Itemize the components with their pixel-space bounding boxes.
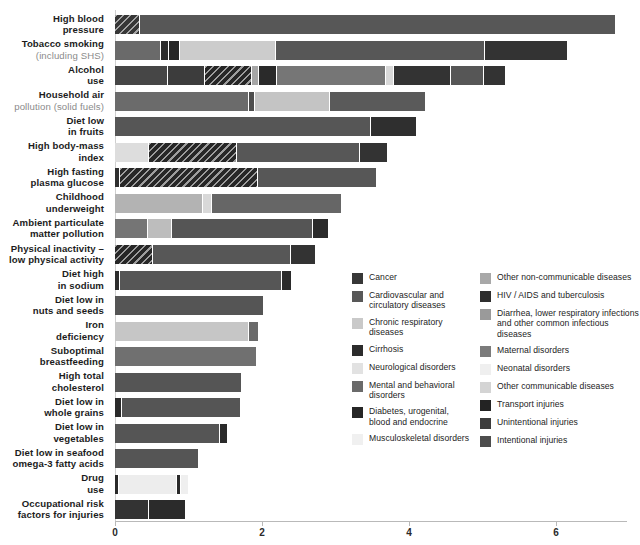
stacked-bar — [115, 245, 315, 264]
bar-segment — [249, 322, 259, 341]
bar-segment — [451, 66, 484, 85]
bar-row-label-line: Childhood — [56, 191, 104, 202]
stacked-bar — [115, 41, 567, 60]
legend-item[interactable]: Diarrhea, lower respiratory infections a… — [480, 308, 640, 339]
bar-segment — [212, 194, 341, 213]
legend-item[interactable]: Neurological disorders — [352, 362, 472, 374]
stacked-bar — [115, 66, 505, 85]
legend-label: Neonatal disorders — [497, 363, 570, 373]
legend-label: Diarrhea, lower respiratory infections a… — [497, 308, 640, 339]
bar-segment — [485, 41, 567, 60]
legend-swatch-icon — [480, 346, 491, 357]
legend-swatch-icon — [480, 418, 491, 429]
legend-item[interactable]: Maternal disorders — [480, 345, 640, 357]
stacked-bar — [115, 92, 425, 111]
bar-segment — [115, 373, 241, 392]
legend-item[interactable]: Cardiovascular and circulatory diseases — [352, 290, 472, 311]
bar-row-label: Irondeficiency — [0, 317, 104, 345]
bar-segment — [115, 347, 256, 366]
bar-row-label-line: Diet low in seafood — [15, 447, 104, 458]
legend-label: Chronic respiratory diseases — [369, 317, 472, 338]
legend-label: Other communicable diseases — [497, 381, 614, 391]
bar-segment — [115, 194, 203, 213]
bar-segment — [140, 15, 615, 34]
bar-row-label-sub: pollution (solid fuels) — [14, 101, 104, 112]
legend-column-2: Other non-communicable diseasesHIV / AID… — [480, 272, 640, 453]
legend-item[interactable]: Chronic respiratory diseases — [352, 317, 472, 338]
bar-segment — [161, 41, 168, 60]
stacked-bar — [115, 398, 240, 417]
bar-row-label-line: low physical activity — [9, 254, 104, 265]
bar-segment — [205, 66, 252, 85]
bar-row: High body-massindex — [0, 138, 633, 166]
bar-row-label-line: Diet low in — [55, 294, 104, 305]
stacked-bar — [115, 373, 241, 392]
legend: CancerCardiovascular and circulatory dis… — [352, 272, 633, 522]
bar-row: Diet lowin fruits — [0, 112, 633, 140]
bar-segment — [276, 41, 485, 60]
bar-row-label-line: Tobacco smoking — [22, 38, 104, 49]
bar-segment — [149, 143, 237, 162]
bar-segment — [330, 92, 426, 111]
stacked-bar — [115, 143, 387, 162]
bar-row: Physical inactivity –low physical activi… — [0, 240, 633, 268]
bar-segment — [255, 92, 330, 111]
bar-segment — [115, 143, 149, 162]
bar-segment — [115, 500, 149, 519]
bar-row-label: Household airpollution (solid fuels) — [0, 87, 104, 115]
legend-label: Unintentional injuries — [497, 417, 578, 427]
bar-segment — [220, 424, 227, 443]
bar-row-label-line: Alcohol — [68, 64, 104, 75]
x-axis-tick — [115, 522, 116, 526]
legend-swatch-icon — [352, 363, 363, 374]
bar-segment — [115, 398, 122, 417]
bar-row-label-line: breastfeeding — [40, 356, 104, 367]
bar-segment — [313, 219, 328, 238]
bar-segment — [386, 66, 393, 85]
bar-row-label-line: in sodium — [58, 280, 104, 291]
legend-item[interactable]: Musculoskeletal disorders — [352, 433, 472, 445]
legend-item[interactable]: Mental and behavioral disorders — [352, 380, 472, 401]
x-axis-tick-label: 2 — [259, 527, 265, 538]
bar-row-label: Suboptimalbreastfeeding — [0, 342, 104, 370]
legend-item[interactable]: Intentional injuries — [480, 435, 640, 447]
bar-row-label-line: underweight — [46, 203, 104, 214]
legend-label: Maternal disorders — [497, 345, 569, 355]
x-axis-tick-label: 4 — [406, 527, 412, 538]
bar-row-label-line: omega-3 fatty acids — [13, 458, 104, 469]
bar-segment — [371, 117, 417, 136]
stacked-bar — [115, 424, 227, 443]
bar-row-label-line: Suboptimal — [51, 345, 104, 356]
legend-label: Cancer — [369, 272, 397, 282]
bar-row-label-line: deficiency — [56, 331, 104, 342]
legend-item[interactable]: Cancer — [352, 272, 472, 284]
legend-item[interactable]: Other non-communicable diseases — [480, 272, 640, 284]
bar-segment — [484, 66, 505, 85]
legend-item[interactable]: Diabetes, urogenital, blood and endocrin… — [352, 406, 472, 427]
bar-row: Tobacco smoking(including SHS) — [0, 36, 633, 64]
bar-segment — [168, 66, 205, 85]
bar-row-label: Childhoodunderweight — [0, 189, 104, 217]
legend-item[interactable]: Cirrhosis — [352, 344, 472, 356]
legend-label: Neurological disorders — [369, 362, 456, 372]
bar-segment — [149, 500, 185, 519]
bar-row-label-line: Diet low — [66, 115, 104, 126]
bar-row-label: Diet lowin fruits — [0, 112, 104, 140]
legend-item[interactable]: Transport injuries — [480, 399, 640, 411]
legend-swatch-icon — [480, 382, 491, 393]
legend-label: Cirrhosis — [369, 344, 403, 354]
legend-label: Diabetes, urogenital, blood and endocrin… — [369, 406, 472, 427]
bar-row-label-sub: (including SHS) — [36, 50, 104, 61]
bar-row-label: High bloodpressure — [0, 10, 104, 38]
legend-item[interactable]: Unintentional injuries — [480, 417, 640, 429]
bar-row-label-line: Physical inactivity – — [11, 243, 104, 254]
legend-item[interactable]: Neonatal disorders — [480, 363, 640, 375]
bar-row-label-line: cholesterol — [52, 382, 104, 393]
bar-row-label-line: Ambient particulate — [13, 217, 104, 228]
legend-label: HIV / AIDS and tuberculosis — [497, 290, 604, 300]
bar-row-label: Physical inactivity –low physical activi… — [0, 240, 104, 268]
bar-segment — [119, 475, 178, 494]
legend-item[interactable]: Other communicable diseases — [480, 381, 640, 393]
legend-item[interactable]: HIV / AIDS and tuberculosis — [480, 290, 640, 302]
